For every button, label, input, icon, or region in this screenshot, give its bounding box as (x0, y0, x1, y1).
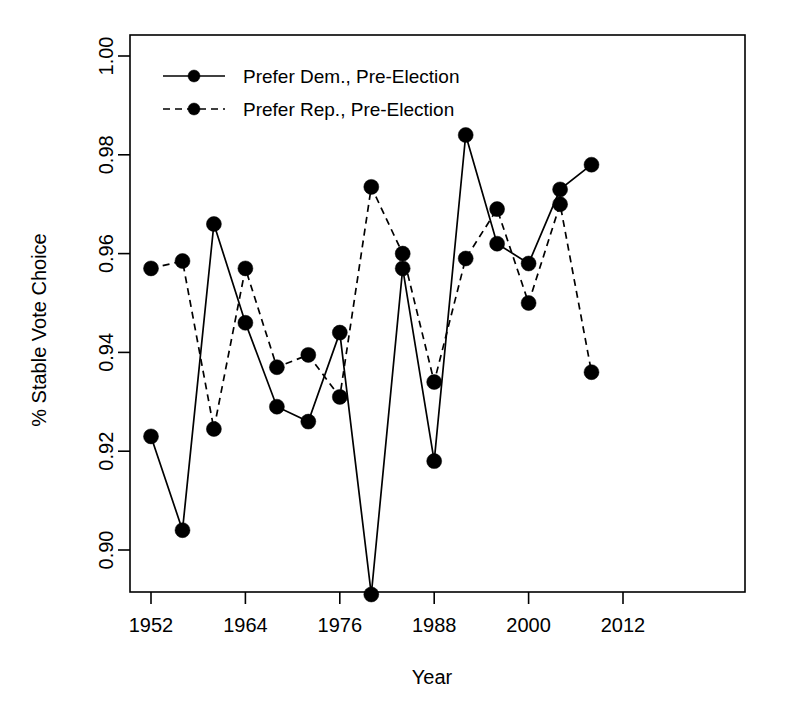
data-point-marker (427, 454, 442, 469)
data-point-marker (332, 389, 347, 404)
data-point-marker (395, 261, 410, 276)
data-point-marker (458, 128, 473, 143)
chart-figure: 195219641976198820002012 0.900.920.940.9… (0, 0, 787, 723)
x-tick-label: 2012 (601, 614, 646, 636)
data-point-marker (301, 414, 316, 429)
data-point-marker (395, 246, 410, 261)
data-point-marker (269, 399, 284, 414)
data-point-marker (490, 202, 505, 217)
y-tick-label: 1.00 (95, 37, 117, 76)
x-axis-title: Year (412, 666, 453, 688)
data-point-marker (553, 197, 568, 212)
data-point-marker (206, 217, 221, 232)
data-point-marker (490, 236, 505, 251)
data-point-marker (364, 587, 379, 602)
data-point-marker (584, 157, 599, 172)
x-tick-label: 1964 (223, 614, 268, 636)
data-series (144, 128, 600, 603)
data-point-marker (553, 182, 568, 197)
data-point-marker (521, 256, 536, 271)
data-point-marker (364, 179, 379, 194)
data-point-marker (175, 254, 190, 269)
data-point-marker (144, 429, 159, 444)
legend-marker-sample (188, 70, 200, 82)
data-point-marker (238, 261, 253, 276)
legend-label: Prefer Dem., Pre-Election (243, 66, 459, 87)
series-line-1 (151, 135, 592, 595)
chart-legend: Prefer Dem., Pre-ElectionPrefer Rep., Pr… (163, 66, 459, 120)
data-point-marker (301, 347, 316, 362)
data-point-marker (427, 375, 442, 390)
x-tick-label: 1976 (318, 614, 363, 636)
data-point-marker (521, 296, 536, 311)
y-tick-label: 0.98 (95, 135, 117, 174)
data-point-marker (332, 325, 347, 340)
y-tick-label: 0.92 (95, 432, 117, 471)
y-tick-label: 0.94 (95, 333, 117, 372)
legend-label: Prefer Rep., Pre-Election (243, 99, 454, 120)
data-point-marker (269, 360, 284, 375)
data-point-marker (175, 523, 190, 538)
x-tick-label: 1988 (412, 614, 457, 636)
x-tick-label: 2000 (506, 614, 551, 636)
x-axis-ticks: 195219641976198820002012 (129, 592, 646, 636)
data-point-marker (458, 251, 473, 266)
legend-marker-sample (188, 103, 200, 115)
data-point-marker (584, 365, 599, 380)
data-point-marker (206, 422, 221, 437)
y-tick-label: 0.96 (95, 234, 117, 273)
y-axis-title: % Stable Vote Choice (28, 233, 50, 426)
data-point-marker (144, 261, 159, 276)
line-chart: 195219641976198820002012 0.900.920.940.9… (0, 0, 787, 723)
y-axis-ticks: 0.900.920.940.960.981.00 (95, 37, 130, 570)
data-point-marker (238, 315, 253, 330)
x-tick-label: 1952 (129, 614, 174, 636)
y-tick-label: 0.90 (95, 531, 117, 570)
